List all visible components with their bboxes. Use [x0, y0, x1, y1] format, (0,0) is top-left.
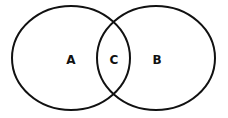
label-b: B: [152, 53, 161, 67]
venn-svg: A C B: [0, 0, 228, 118]
venn-diagram: A C B: [0, 0, 228, 118]
label-a: A: [66, 53, 76, 67]
label-c: C: [110, 53, 119, 67]
